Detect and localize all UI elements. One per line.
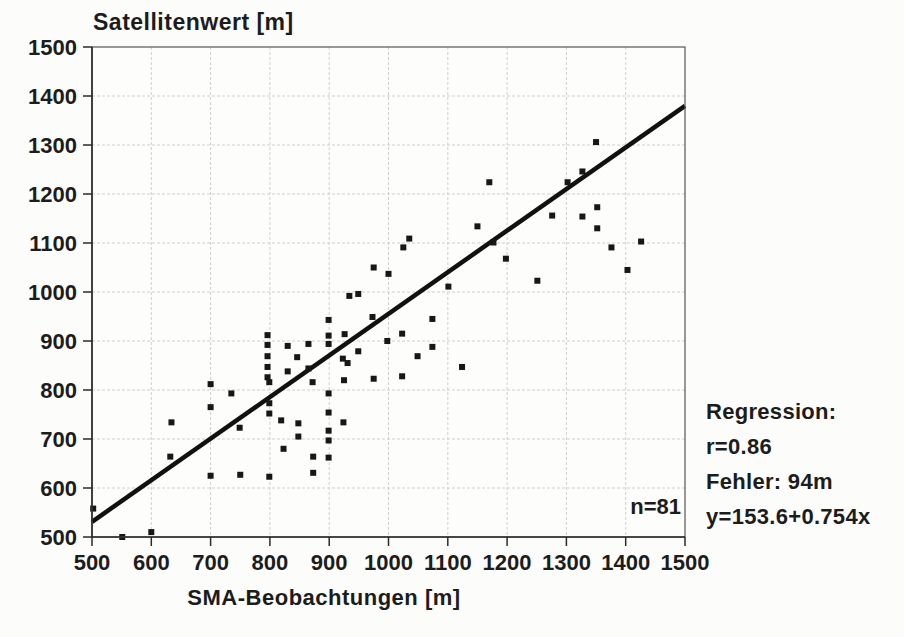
- data-point: [384, 338, 390, 344]
- data-point: [208, 473, 214, 479]
- regression-equation: y=153.6+0.754x: [706, 499, 870, 534]
- data-point: [346, 293, 352, 299]
- data-point: [148, 529, 154, 535]
- x-tick-label: 1500: [661, 550, 710, 575]
- y-tick-label: 600: [40, 476, 77, 501]
- data-point: [265, 353, 271, 359]
- data-point: [326, 455, 332, 461]
- data-point: [310, 454, 316, 460]
- data-point: [310, 379, 316, 385]
- data-point: [490, 240, 496, 246]
- data-point: [593, 139, 599, 145]
- data-point: [90, 506, 96, 512]
- data-point: [228, 390, 234, 396]
- data-point: [265, 364, 271, 370]
- data-point: [278, 417, 284, 423]
- data-point: [326, 341, 332, 347]
- data-point: [579, 168, 585, 174]
- x-tick-label: 1000: [364, 550, 413, 575]
- data-point: [399, 373, 405, 379]
- data-point: [429, 316, 435, 322]
- data-point: [294, 354, 300, 360]
- x-tick-label: 1400: [601, 550, 650, 575]
- data-point: [168, 419, 174, 425]
- data-point: [345, 360, 351, 366]
- sample-size-label: n=81: [480, 494, 681, 520]
- data-point: [326, 437, 332, 443]
- regression-error-value: Fehler: 94m: [706, 464, 870, 499]
- data-point: [386, 271, 392, 277]
- x-tick-label: 800: [252, 550, 289, 575]
- data-point: [265, 332, 271, 338]
- data-point: [285, 343, 291, 349]
- y-tick-label: 900: [40, 329, 77, 354]
- data-point: [237, 425, 243, 431]
- regression-heading: Regression:: [706, 394, 870, 429]
- y-tick-label: 1100: [29, 231, 77, 256]
- y-tick-label: 700: [40, 427, 77, 452]
- x-tick-label: 900: [311, 550, 348, 575]
- data-point: [594, 225, 600, 231]
- data-point: [608, 244, 614, 250]
- data-point: [326, 390, 332, 396]
- data-point: [285, 368, 291, 374]
- y-tick-label: 1500: [28, 35, 77, 60]
- x-tick-label: 700: [192, 550, 229, 575]
- y-tick-label: 800: [40, 378, 77, 403]
- data-point: [579, 214, 585, 220]
- data-point: [341, 377, 347, 383]
- data-point: [415, 353, 421, 359]
- data-point: [369, 314, 375, 320]
- data-point: [266, 411, 272, 417]
- data-point: [310, 470, 316, 476]
- data-point: [265, 342, 271, 348]
- regression-annotation: Regression: r=0.86 Fehler: 94m y=153.6+0…: [706, 394, 870, 534]
- data-point: [342, 331, 348, 337]
- data-point: [326, 428, 332, 434]
- data-point: [355, 291, 361, 297]
- data-point: [400, 244, 406, 250]
- data-point: [565, 179, 571, 185]
- data-point: [208, 381, 214, 387]
- data-point: [237, 472, 243, 478]
- data-point: [399, 331, 405, 337]
- data-point: [486, 179, 492, 185]
- data-point: [208, 404, 214, 410]
- scatter-plot-figure: 5006007008009001000110012001300140015005…: [0, 0, 904, 637]
- data-point: [305, 365, 311, 371]
- data-point: [326, 333, 332, 339]
- x-tick-label: 1100: [424, 550, 472, 575]
- data-point: [624, 267, 630, 273]
- x-tick-label: 1300: [542, 550, 591, 575]
- data-point: [503, 256, 509, 262]
- data-point: [594, 204, 600, 210]
- y-tick-label: 1200: [28, 182, 77, 207]
- data-point: [266, 400, 272, 406]
- data-point: [429, 344, 435, 350]
- data-point: [295, 420, 301, 426]
- y-tick-label: 1400: [28, 84, 77, 109]
- scatter-plot-canvas: 5006007008009001000110012001300140015005…: [0, 0, 904, 637]
- data-point: [406, 236, 412, 242]
- data-point: [371, 376, 377, 382]
- y-tick-label: 1000: [28, 280, 77, 305]
- y-tick-label: 500: [40, 525, 77, 550]
- data-point: [326, 317, 332, 323]
- data-point: [305, 341, 311, 347]
- data-point: [445, 284, 451, 290]
- data-point: [326, 410, 332, 416]
- data-point: [638, 239, 644, 245]
- y-tick-label: 1300: [28, 133, 77, 158]
- data-point: [266, 474, 272, 480]
- regression-r-value: r=0.86: [706, 429, 870, 464]
- x-tick-label: 500: [74, 550, 111, 575]
- data-point: [474, 223, 480, 229]
- data-point: [340, 419, 346, 425]
- data-point: [266, 379, 272, 385]
- data-point: [281, 446, 287, 452]
- data-point: [355, 348, 361, 354]
- data-point: [549, 213, 555, 219]
- x-axis-title: SMA-Beobachtungen [m]: [0, 585, 648, 611]
- x-tick-label: 600: [133, 550, 170, 575]
- data-point: [371, 265, 377, 271]
